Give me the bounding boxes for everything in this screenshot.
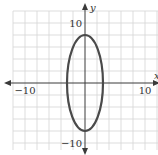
x-tick-label: −10	[14, 85, 35, 96]
y-axis-arrow-down-icon	[82, 148, 88, 155]
x-axis-arrow-left-icon	[4, 80, 11, 86]
y-tick-label: −10	[61, 138, 82, 149]
ellipse-graph: y x −101010−10	[0, 0, 158, 155]
y-tick-label: 10	[69, 18, 82, 29]
x-tick-label: 10	[139, 85, 152, 96]
x-axis-label: x	[154, 70, 158, 81]
y-axis-arrow-up-icon	[82, 3, 88, 10]
y-axis-label: y	[89, 2, 96, 13]
